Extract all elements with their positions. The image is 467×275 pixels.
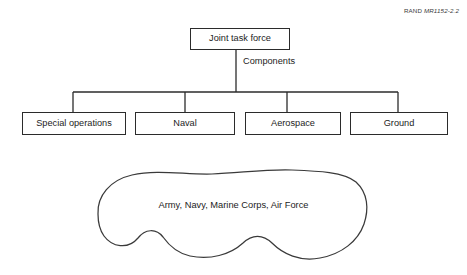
node-joint-task-force-label: Joint task force (209, 34, 271, 43)
node-naval: Naval (135, 112, 235, 135)
node-ground: Ground (350, 112, 448, 135)
node-ground-label: Ground (384, 119, 415, 128)
figure-credit-label: RAND (404, 7, 424, 14)
node-special-operations-label: Special operations (36, 119, 112, 128)
figure-credit-code: MR1152-2.2 (424, 7, 459, 14)
node-aerospace-label: Aerospace (271, 119, 315, 128)
node-joint-task-force: Joint task force (190, 28, 290, 50)
node-special-operations: Special operations (22, 112, 126, 135)
services-blob-caption: Army, Navy, Marine Corps, Air Force (0, 201, 467, 210)
figure-root: RAND MR1152-2.2 Joint task force Compone… (0, 0, 467, 275)
node-aerospace: Aerospace (245, 112, 341, 135)
node-naval-label: Naval (173, 119, 197, 128)
figure-credit: RAND MR1152-2.2 (404, 7, 459, 14)
edge-label-components: Components (243, 57, 295, 66)
services-blob-outline (98, 170, 367, 259)
tree-connectors (73, 50, 398, 112)
